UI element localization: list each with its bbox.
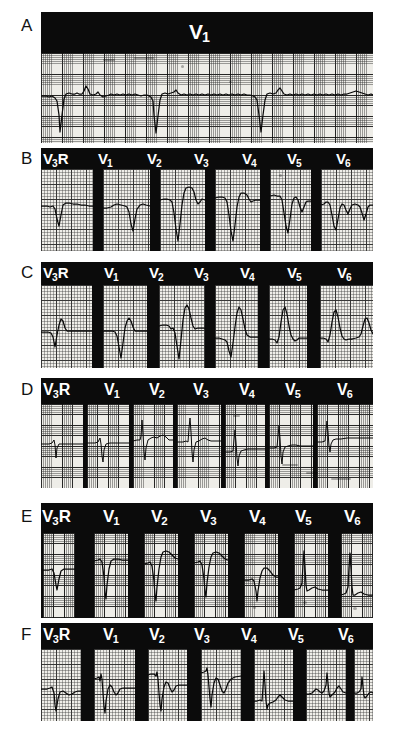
ecg-trace-panel-e xyxy=(41,533,373,618)
panel-c-lead-label-v3r: V3R xyxy=(43,265,69,280)
lead-subscript: 5 xyxy=(296,272,302,283)
lead-subscript: 4 xyxy=(249,388,255,400)
lead-subscript: 4 xyxy=(259,515,265,527)
lead-subscript: 3 xyxy=(203,158,209,169)
panel-e-strip xyxy=(41,533,373,618)
lead-subscript: 1 xyxy=(113,515,119,527)
lead-subscript: 5 xyxy=(298,633,304,645)
panel-f: V3R V1 V2 V3 V4 V5 V6 xyxy=(41,623,373,721)
scan-speck xyxy=(331,478,351,480)
panel-f-lead-label-v3r: V3R xyxy=(43,627,70,643)
panel-d-lead-label-v6: V6 xyxy=(337,382,353,398)
panel-c-lead-label-v4: V4 xyxy=(240,265,255,280)
panel-e-lead-label-v2: V2 xyxy=(151,508,168,525)
panel-c-label-band: V3R V1 V2 V3 V4 V5 V6 xyxy=(41,262,373,285)
scan-speck xyxy=(103,59,115,61)
scan-speck xyxy=(282,464,298,466)
panel-f-lead-label-v6: V6 xyxy=(338,627,354,643)
panel-d-lead-label-v4: V4 xyxy=(239,382,255,398)
panel-f-lead-label-v1: V1 xyxy=(103,627,119,643)
panel-c-lead-label-v5: V5 xyxy=(287,265,302,280)
lead-subscript: 2 xyxy=(159,633,165,645)
ecg-trace-panel-c xyxy=(41,285,373,368)
lead-subscript: 2 xyxy=(156,158,162,169)
panel-e-lead-label-v3r: V3R xyxy=(42,508,71,525)
panel-b-letter: B xyxy=(21,150,32,167)
panel-e-label-band: V3R V1 V2 V3 V4 V5 V6 xyxy=(41,503,373,533)
panel-f-lead-label-v3: V3 xyxy=(194,627,210,643)
panel-d-lead-label-v3: V3 xyxy=(193,382,209,398)
lead-subscript: 3 xyxy=(204,633,210,645)
panel-b-label-band: V3R V1 V2 V3 V4 V5 V6 xyxy=(41,148,373,169)
lead-subscript: 5 xyxy=(296,158,302,169)
panel-a-strip xyxy=(41,53,373,143)
lead-subscript: 6 xyxy=(346,272,352,283)
panel-f-strip xyxy=(41,649,373,721)
lead-suffix: R xyxy=(59,626,71,643)
lead-subscript: 6 xyxy=(354,515,360,527)
panel-a-label-band: V1 xyxy=(41,12,373,53)
lead-subscript: 2 xyxy=(158,272,164,283)
lead-suffix: R xyxy=(58,150,69,167)
lead-subscript: 5 xyxy=(305,515,311,527)
panel-e: V3R V1 V2 V3 V4 V5 V6 xyxy=(41,503,373,618)
panel-e-lead-label-v1: V1 xyxy=(103,508,120,525)
panel-f-lead-label-v5: V5 xyxy=(288,627,304,643)
panel-f-letter: F xyxy=(21,626,31,643)
lead-subscript: 3 xyxy=(203,388,209,400)
lead-subscript: 4 xyxy=(251,158,257,169)
panel-d-letter: D xyxy=(21,381,33,398)
lead-suffix: R xyxy=(58,264,69,281)
lead-suffix: R xyxy=(59,507,71,526)
ecg-trace-panel-d xyxy=(41,404,373,488)
panel-d-lead-label-v2: V2 xyxy=(149,382,165,398)
lead-subscript: 3 xyxy=(52,158,58,169)
panel-b-strip xyxy=(41,169,373,251)
scan-speck xyxy=(303,601,307,604)
panel-c-lead-label-v6: V6 xyxy=(337,265,352,280)
panel-d-lead-label-v5: V5 xyxy=(285,382,301,398)
lead-subscript: 6 xyxy=(348,633,354,645)
panel-d: V3R V1 V2 V3 V4 V5 V6 xyxy=(41,378,373,488)
ecg-trace-panel-b xyxy=(41,169,373,251)
panel-a-lead-label: V1 xyxy=(189,21,210,42)
panel-d-label-band: V3R V1 V2 V3 V4 V5 V6 xyxy=(41,378,373,404)
lead-subscript: 2 xyxy=(161,515,167,527)
panel-c-letter: C xyxy=(21,264,33,281)
lead-subscript: 3 xyxy=(210,515,216,527)
panel-c-lead-label-v2: V2 xyxy=(149,265,164,280)
lead-subscript: 6 xyxy=(347,388,353,400)
lead-subscript: 3 xyxy=(53,633,59,645)
panel-d-lead-label-v1: V1 xyxy=(104,382,120,398)
lead-subscript: 4 xyxy=(251,633,257,645)
ecg-trace-v1 xyxy=(41,53,373,143)
scan-speck xyxy=(253,606,256,609)
lead-subscript: 1 xyxy=(107,158,113,169)
panel-e-letter: E xyxy=(21,508,32,525)
panel-a: V1 xyxy=(41,12,373,143)
lead-suffix: R xyxy=(59,381,71,398)
scan-speck xyxy=(134,57,154,59)
panel-d-strip xyxy=(41,404,373,488)
lead-subscript: 1 xyxy=(114,388,120,400)
panel-f-lead-label-v4: V4 xyxy=(241,627,257,643)
lead-subscript: 3 xyxy=(52,515,58,527)
scan-speck xyxy=(353,607,357,610)
lead-subscript: 1 xyxy=(202,29,210,45)
lead-letter: V xyxy=(189,20,203,43)
panel-b-lead-label-v5: V5 xyxy=(287,151,302,166)
lead-subscript: 1 xyxy=(113,633,119,645)
lead-subscript: 3 xyxy=(203,272,209,283)
panel-b: V3R V1 V2 V3 V4 V5 V6 xyxy=(41,148,373,251)
panel-a-letter: A xyxy=(21,17,32,34)
panel-b-lead-label-v3r: V3R xyxy=(43,151,69,166)
panel-e-lead-label-v5: V5 xyxy=(295,508,312,525)
panel-c-lead-label-v3: V3 xyxy=(194,265,209,280)
lead-subscript: 2 xyxy=(159,388,165,400)
ecg-trace-panel-f xyxy=(41,649,373,721)
panel-b-lead-label-v6: V6 xyxy=(336,151,351,166)
lead-subscript: 4 xyxy=(249,272,255,283)
ecg-figure: V1 A V3R V1 V2 V3 xyxy=(0,0,395,732)
panel-e-lead-label-v4: V4 xyxy=(249,508,266,525)
scan-speck xyxy=(233,415,240,417)
